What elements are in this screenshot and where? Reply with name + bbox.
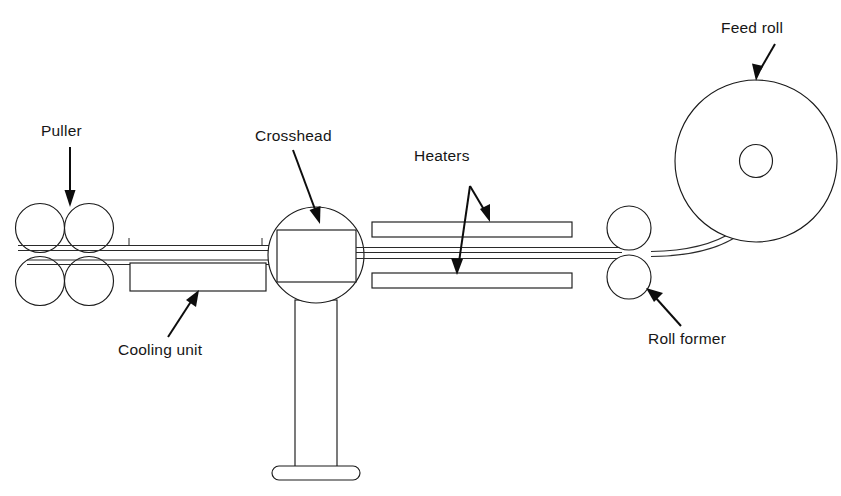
cooling-unit-body (130, 263, 266, 291)
puller-assembly (16, 204, 114, 306)
feed-roll-leader (752, 44, 775, 81)
crosshead-assembly (268, 207, 364, 480)
feed-roll-hub (740, 145, 773, 178)
strand-feed-lower (651, 236, 738, 257)
roll-former-leader (646, 288, 681, 326)
label-puller: Puller (41, 122, 82, 139)
label-cooling-unit: Cooling unit (118, 341, 203, 358)
roll-former-upper-roll (607, 206, 651, 250)
feed-roll-arrowhead (752, 64, 763, 82)
cooling-unit-leader (168, 290, 199, 337)
roll-former-lower-roll (607, 255, 651, 299)
strand-right-section (356, 248, 622, 259)
heater-bar-bottom (372, 273, 572, 288)
heater-bar-top (372, 222, 572, 237)
label-crosshead: Crosshead (255, 127, 332, 144)
puller-roll-bottom-left (16, 257, 65, 306)
roll-former-arrowhead (646, 288, 663, 302)
label-roll-former: Roll former (648, 330, 726, 347)
crosshead-pedestal-column (295, 300, 337, 468)
feed-roll-assembly (675, 80, 837, 242)
puller-arrowhead (65, 190, 76, 207)
heaters-assembly (372, 222, 572, 288)
diagram-canvas: Puller Crosshead Heaters Feed roll Cooli… (0, 0, 841, 496)
process-diagram-svg: Puller Crosshead Heaters Feed roll Cooli… (0, 0, 841, 496)
crosshead-die-block (277, 230, 356, 282)
crosshead-base-plate (272, 466, 360, 480)
label-heaters: Heaters (414, 147, 470, 164)
label-feed-roll: Feed roll (721, 19, 783, 36)
puller-leader (65, 147, 76, 207)
puller-roll-bottom-right (65, 257, 114, 306)
